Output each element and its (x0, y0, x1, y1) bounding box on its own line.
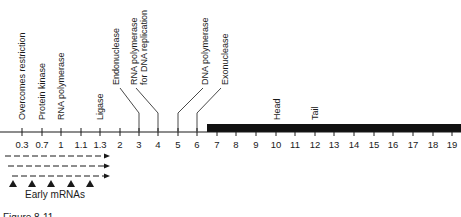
tick-label: 12 (310, 139, 321, 150)
promoter-triangle-icon (67, 180, 75, 187)
tick-label: 5 (175, 139, 180, 150)
map-canvas: Overcomes restrictionProtein kinaseRNA p… (0, 0, 461, 217)
tick-label: 9 (253, 139, 258, 150)
transcript-arrow (12, 174, 110, 179)
tick-label: 6 (194, 139, 199, 150)
tick-label: 13 (329, 139, 340, 150)
leader-line (178, 88, 203, 131)
tick-label: 10 (271, 139, 282, 150)
tick-label: 8 (233, 139, 238, 150)
tick-label: 19 (447, 139, 458, 150)
tick-label: 4 (155, 139, 160, 150)
gene-label: Head (272, 98, 282, 120)
gene-label-line: RNA polymerase (56, 52, 66, 120)
tick-label: 16 (388, 139, 399, 150)
promoter-triangle-icon (47, 180, 55, 187)
gene-label-line: Overcomes restriction (17, 32, 27, 120)
gene-label: Exonuclease (220, 33, 230, 85)
gene-label: Protein kinase (37, 63, 47, 120)
leader-lines (120, 88, 221, 131)
promoter-triangle-icon (28, 180, 36, 187)
arrowhead-icon (104, 164, 110, 169)
promoter-triangle-icon (9, 180, 17, 187)
late-region-bar (207, 124, 461, 132)
tick-label: 1.3 (93, 139, 106, 150)
figure-caption: Figure 8-11 (3, 212, 54, 217)
arrowhead-icon (104, 174, 110, 179)
tick-label: 14 (349, 139, 360, 150)
transcript-arrow (5, 154, 110, 159)
gene-label-line: Tail (310, 106, 320, 120)
tick-label: 17 (408, 139, 419, 150)
genetic-map-diagram: Overcomes restrictionProtein kinaseRNA p… (0, 0, 461, 217)
tick-label: 1 (58, 139, 63, 150)
gene-label: RNA polymerasefor DNA replication (129, 10, 149, 85)
early-transcripts (5, 154, 110, 179)
gene-label: Overcomes restriction (17, 32, 27, 120)
tick-label: 18 (428, 139, 439, 150)
tick-label: 11 (290, 139, 300, 150)
legend-early-mrnas: Early mRNAs (25, 189, 85, 200)
gene-label-line: Endonuclease (111, 28, 121, 85)
transcript-arrow (8, 164, 110, 169)
gene-label-line: Head (272, 98, 282, 120)
leader-line (120, 88, 139, 131)
tick-label: 3 (136, 139, 141, 150)
gene-label: DNA polymerase (200, 17, 210, 85)
gene-label-line: Exonuclease (220, 33, 230, 85)
tick-label: 15 (369, 139, 380, 150)
promoter-markers (9, 180, 94, 187)
gene-label-line: Protein kinase (37, 63, 47, 120)
gene-label: RNA polymerase (56, 52, 66, 120)
tick-label: 0.3 (15, 139, 28, 150)
gene-label: Tail (310, 106, 320, 120)
late-genes-bar (207, 124, 461, 132)
tick-label: 2 (117, 139, 122, 150)
tick-label: 0.7 (35, 139, 48, 150)
tick-label: 1.1 (74, 139, 87, 150)
gene-label-line: DNA polymerase (200, 17, 210, 85)
gene-label: Ligase (95, 93, 105, 120)
arrowhead-icon (104, 154, 110, 159)
gene-label: Endonuclease (111, 28, 121, 85)
gene-label-line: for DNA replication (139, 10, 149, 85)
promoter-triangle-icon (86, 180, 94, 187)
gene-labels: Overcomes restrictionProtein kinaseRNA p… (17, 10, 320, 120)
gene-label-line: RNA polymerase (129, 17, 139, 85)
tick-label: 7 (214, 139, 219, 150)
gene-label-line: Ligase (95, 93, 105, 120)
